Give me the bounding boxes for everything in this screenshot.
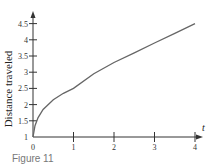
y-tick-label: 2 — [24, 101, 28, 110]
y-tick-label: 3 — [24, 68, 28, 77]
x-tick-label: 4 — [193, 143, 197, 152]
x-tick-label: 1 — [72, 143, 76, 152]
y-tick-label: 3.5 — [18, 52, 28, 61]
x-tick-label: 3 — [153, 143, 157, 152]
x-axis: 01234 t — [31, 122, 205, 152]
distance-curve — [33, 24, 195, 137]
y-tick-label: 1 — [24, 133, 28, 142]
figure-caption: Figure 11 — [12, 153, 54, 164]
y-tick-label: 4.5 — [18, 20, 28, 29]
x-axis-arrow-icon — [196, 135, 203, 140]
x-tick-label: 0 — [31, 143, 35, 152]
y-tick-label: 4 — [24, 36, 28, 45]
y-axis: 11.522.533.544.5 — [18, 11, 37, 142]
y-axis-label: Distance traveled — [2, 50, 14, 127]
chart: 11.522.533.544.5 01234 t Distance travel… — [0, 0, 209, 167]
x-axis-label: t — [202, 122, 205, 133]
y-axis-arrow-icon — [31, 11, 36, 18]
y-tick-label: 1.5 — [18, 117, 28, 126]
y-tick-label: 2.5 — [18, 84, 28, 93]
x-tick-label: 2 — [112, 143, 116, 152]
